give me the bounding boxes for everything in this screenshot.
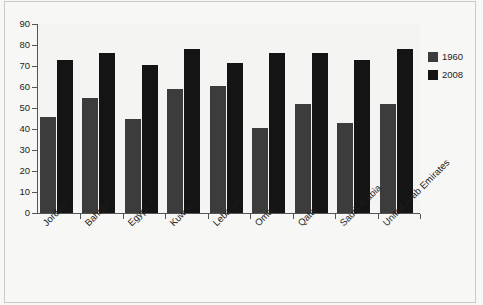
bars-layer	[38, 24, 420, 213]
bar-2008	[227, 63, 243, 213]
chart-screenshot: 0102030405060708090 JordanBahrainEgyptKu…	[0, 0, 483, 305]
y-axis-tick	[32, 213, 38, 214]
bar-group	[250, 24, 292, 213]
bar-1960	[210, 86, 226, 213]
legend-item-2008: 2008	[428, 67, 476, 82]
bar-2008	[99, 53, 115, 213]
bar-1960	[82, 98, 98, 214]
bar-group	[378, 24, 420, 213]
bar-group	[80, 24, 122, 213]
y-axis-tick-label: 60	[6, 82, 30, 92]
bar-2008	[397, 49, 413, 213]
y-axis-tick-label: 80	[6, 40, 30, 50]
bar-chart: 0102030405060708090 JordanBahrainEgyptKu…	[0, 0, 483, 305]
y-axis-tick-label: 30	[6, 145, 30, 155]
bar-group	[123, 24, 165, 213]
x-axis-tick	[293, 214, 294, 219]
legend-label-2008: 2008	[442, 70, 463, 80]
legend-item-1960: 1960	[428, 49, 476, 64]
bar-1960	[380, 104, 396, 213]
bar-group	[208, 24, 250, 213]
y-axis-tick-label: 70	[6, 61, 30, 71]
bar-2008	[57, 60, 73, 213]
x-axis-tick	[165, 214, 166, 219]
y-axis-tick-label: 50	[6, 103, 30, 113]
x-axis-tick	[250, 214, 251, 219]
bar-1960	[125, 119, 141, 214]
bar-2008	[142, 65, 158, 213]
x-axis-tick	[420, 214, 421, 219]
x-axis-tick	[80, 214, 81, 219]
bar-2008	[184, 49, 200, 213]
bar-1960	[252, 128, 268, 213]
bar-1960	[40, 117, 56, 213]
legend-swatch-2008	[428, 70, 438, 80]
bar-group	[38, 24, 80, 213]
y-axis-tick-label: 0	[6, 208, 30, 218]
x-axis-tick	[123, 214, 124, 219]
legend-label-1960: 1960	[442, 52, 463, 62]
bar-1960	[337, 123, 353, 213]
bar-2008	[312, 53, 328, 213]
bar-1960	[167, 89, 183, 213]
bar-2008	[269, 53, 285, 213]
y-axis-tick-label: 40	[6, 124, 30, 134]
x-axis-tick	[378, 214, 379, 219]
bar-1960	[295, 104, 311, 213]
y-axis-tick-label: 10	[6, 187, 30, 197]
x-axis-tick	[208, 214, 209, 219]
bar-group	[293, 24, 335, 213]
legend-swatch-1960	[428, 52, 438, 62]
bar-group	[165, 24, 207, 213]
x-axis-tick	[335, 214, 336, 219]
y-axis-tick-label: 90	[6, 19, 30, 29]
chart-legend: 1960 2008	[428, 49, 476, 85]
y-axis-tick-label: 20	[6, 166, 30, 176]
